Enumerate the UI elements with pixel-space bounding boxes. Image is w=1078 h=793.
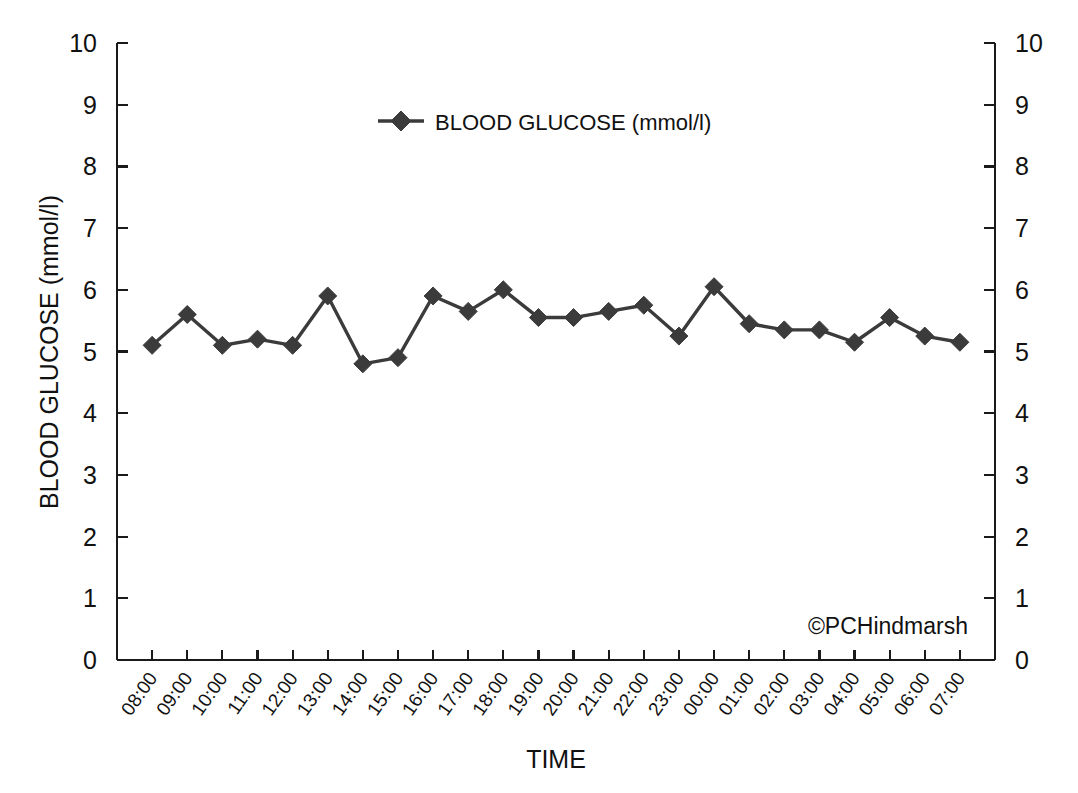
x-tick-label: 07:00 [925, 668, 969, 719]
x-axis-tick-labels: 08:0009:0010:0011:0012:0013:0014:0015:00… [117, 668, 969, 719]
x-tick-label: 22:00 [609, 668, 653, 719]
copyright-annotation: ©PCHindmarsh [808, 613, 968, 639]
x-tick-label: 17:00 [433, 668, 477, 719]
data-point-marker [459, 302, 477, 320]
data-point-marker [354, 355, 372, 373]
x-tick-label: 08:00 [117, 668, 161, 719]
y-tick-label-right: 2 [1015, 523, 1029, 551]
x-axis-ticks [152, 650, 960, 660]
left-y-axis-ticks [117, 43, 128, 660]
x-tick-label: 00:00 [679, 668, 723, 719]
y-tick-label-left: 1 [83, 584, 97, 612]
x-tick-label: 13:00 [293, 668, 337, 719]
y-axis-title: BLOOD GLUCOSE (mmol/l) [35, 195, 63, 509]
x-tick-label: 19:00 [503, 668, 547, 719]
data-point-marker [565, 309, 583, 327]
x-tick-label: 15:00 [363, 668, 407, 719]
y-tick-label-right: 6 [1015, 276, 1029, 304]
y-tick-label-left: 5 [83, 338, 97, 366]
y-tick-label-left: 9 [83, 91, 97, 119]
left-y-axis-tick-labels: 012345678910 [69, 29, 97, 674]
y-tick-label-left: 0 [83, 646, 97, 674]
y-tick-label-right: 9 [1015, 91, 1029, 119]
data-point-marker [424, 287, 442, 305]
x-tick-label: 21:00 [573, 668, 617, 719]
chart-container: 012345678910 012345678910 08:0009:0010:0… [0, 0, 1078, 793]
y-tick-label-right: 0 [1015, 646, 1029, 674]
right-y-axis-ticks [984, 43, 995, 660]
x-tick-label: 16:00 [398, 668, 442, 719]
y-tick-label-left: 2 [83, 523, 97, 551]
y-tick-label-left: 4 [83, 399, 97, 427]
x-tick-label: 11:00 [223, 668, 267, 718]
data-point-marker [775, 321, 793, 339]
y-tick-label-right: 7 [1015, 214, 1029, 242]
x-tick-label: 02:00 [749, 668, 793, 719]
series-markers-blood-glucose [143, 278, 969, 373]
y-tick-label-right: 10 [1015, 29, 1043, 57]
legend-label-blood-glucose: BLOOD GLUCOSE (mmol/l) [435, 110, 711, 135]
x-tick-label: 04:00 [819, 668, 863, 719]
y-tick-label-right: 4 [1015, 399, 1029, 427]
x-tick-label: 10:00 [187, 668, 231, 719]
x-tick-label: 01:00 [714, 668, 758, 719]
y-tick-label-right: 1 [1015, 584, 1029, 612]
x-tick-label: 12:00 [257, 668, 301, 719]
y-tick-label-left: 8 [83, 152, 97, 180]
x-axis-title: TIME [526, 745, 586, 773]
series-line-blood-glucose [152, 287, 960, 364]
data-point-marker [389, 349, 407, 367]
y-tick-label-right: 5 [1015, 338, 1029, 366]
y-tick-label-left: 7 [83, 214, 97, 242]
x-tick-label: 09:00 [152, 668, 196, 719]
y-tick-label-left: 3 [83, 461, 97, 489]
data-point-marker [248, 330, 266, 348]
right-y-axis-tick-labels: 012345678910 [1015, 29, 1043, 674]
x-tick-label: 18:00 [468, 668, 512, 719]
x-tick-label: 20:00 [538, 668, 582, 719]
y-tick-label-right: 3 [1015, 461, 1029, 489]
blood-glucose-line-chart: 012345678910 012345678910 08:0009:0010:0… [0, 0, 1078, 793]
x-tick-label: 06:00 [890, 668, 934, 719]
x-tick-label: 05:00 [854, 668, 898, 719]
data-point-marker [916, 327, 934, 345]
y-tick-label-right: 8 [1015, 152, 1029, 180]
diamond-marker-icon [391, 111, 411, 131]
chart-legend: BLOOD GLUCOSE (mmol/l) [378, 110, 711, 135]
data-point-marker [951, 333, 969, 351]
y-tick-label-left: 6 [83, 276, 97, 304]
x-tick-label: 23:00 [644, 668, 688, 719]
data-point-marker [810, 321, 828, 339]
y-tick-label-left: 10 [69, 29, 97, 57]
x-tick-label: 03:00 [784, 668, 828, 719]
data-point-marker [600, 302, 618, 320]
x-tick-label: 14:00 [328, 668, 372, 719]
